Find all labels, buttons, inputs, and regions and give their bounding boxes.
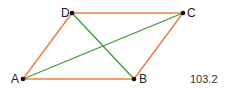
label-d: D [61, 7, 70, 19]
label-b: B [139, 73, 147, 85]
diagonal-bd [72, 13, 134, 79]
point-d [70, 11, 75, 16]
point-a [21, 77, 26, 82]
value-label: 103.2 [190, 74, 218, 85]
point-c [181, 11, 186, 16]
point-b [132, 77, 137, 82]
label-c: C [187, 7, 196, 19]
label-a: A [11, 73, 19, 85]
